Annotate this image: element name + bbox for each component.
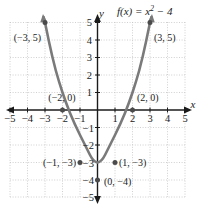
y-tick-label--5: −5 bbox=[83, 192, 94, 203]
y-tick-label--1: −1 bbox=[83, 123, 94, 134]
x-tick-label-5: 5 bbox=[182, 113, 187, 124]
y-tick-label-5: 5 bbox=[87, 17, 92, 28]
annotation--2-0: (−2, 0) bbox=[48, 92, 75, 104]
x-tick-label--5: −5 bbox=[4, 113, 15, 124]
point--1--3 bbox=[78, 160, 83, 165]
annotation-3-5: (3, 5) bbox=[154, 32, 176, 44]
point-1--3 bbox=[113, 160, 118, 165]
function-label: f(x) = x2 − 4 bbox=[117, 4, 173, 18]
x-tick-label-4: 4 bbox=[165, 113, 171, 124]
x-tick-label-1: 1 bbox=[112, 113, 117, 124]
x-tick-label--3: −3 bbox=[39, 113, 50, 124]
annotation--1--3: (−1, −3) bbox=[43, 157, 76, 169]
x-tick-label-3: 3 bbox=[147, 113, 152, 124]
point--2-0 bbox=[60, 108, 65, 113]
x-axis-label: x bbox=[190, 98, 196, 110]
y-tick-label-4: 4 bbox=[87, 35, 93, 46]
y-tick-label-3: 3 bbox=[87, 52, 92, 63]
annotation-0--4: (0, −4) bbox=[104, 176, 131, 188]
point-0--4 bbox=[95, 178, 100, 183]
y-tick-label-1: 1 bbox=[87, 87, 92, 98]
annotation-2-0: (2, 0) bbox=[137, 92, 159, 104]
point-3-5 bbox=[148, 20, 153, 25]
function-label-main: f(x) = x bbox=[117, 5, 150, 18]
figure-background bbox=[0, 0, 203, 206]
x-tick-label--2: −2 bbox=[57, 113, 68, 124]
y-tick-label-2: 2 bbox=[87, 70, 92, 81]
annotation-1--3: (1, −3) bbox=[119, 157, 146, 169]
parabola-graph-figure: −5 −4 −3 −2 −1 1 2 3 4 5 5 4 3 2 1 −1 −2… bbox=[0, 0, 203, 206]
point--3-5 bbox=[43, 20, 48, 25]
y-axis-label: y bbox=[98, 7, 104, 19]
svg-text:f(x) = x2 − 4: f(x) = x2 − 4 bbox=[117, 4, 173, 18]
y-tick-label--2: −2 bbox=[83, 140, 94, 151]
y-tick-label--4: −4 bbox=[83, 175, 95, 186]
x-tick-label--4: −4 bbox=[22, 113, 34, 124]
y-tick-label--3: −3 bbox=[83, 158, 94, 169]
function-label-tail: − 4 bbox=[154, 5, 173, 17]
annotation--3-5: (−3, 5) bbox=[14, 32, 41, 44]
point-2-0 bbox=[130, 108, 135, 113]
x-tick-label-2: 2 bbox=[130, 113, 135, 124]
